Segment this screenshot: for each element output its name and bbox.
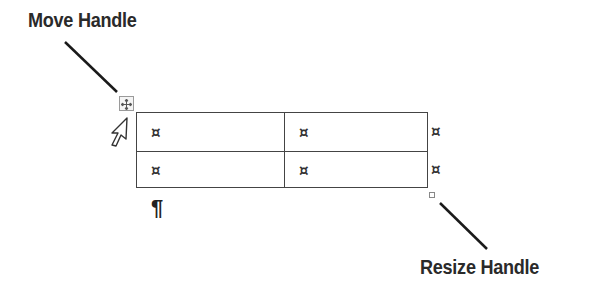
resize-handle-pointer-line <box>440 203 487 249</box>
cell-end-mark: ¤ <box>151 126 161 141</box>
move-arrows-icon <box>120 98 133 111</box>
paragraph-mark: ¶ <box>151 197 163 219</box>
arrow-cursor-icon <box>108 117 130 151</box>
cell-end-mark: ¤ <box>299 126 309 141</box>
row-end-mark: ¤ <box>431 163 441 178</box>
cell-end-mark: ¤ <box>299 164 309 179</box>
move-handle-pointer-line <box>65 42 117 92</box>
column-divider[interactable] <box>284 113 285 187</box>
word-table[interactable]: ¤ ¤ ¤ ¤ <box>136 112 428 188</box>
row-end-mark: ¤ <box>431 125 441 140</box>
cell-end-mark: ¤ <box>151 164 161 179</box>
table-move-handle[interactable] <box>119 96 134 111</box>
row-divider[interactable] <box>137 151 427 152</box>
table-resize-handle[interactable] <box>429 192 435 198</box>
